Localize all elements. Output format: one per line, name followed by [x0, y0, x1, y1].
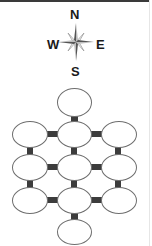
room-r3-right	[101, 187, 137, 214]
room-r2-left	[12, 154, 48, 181]
compass-rose: N W E S	[0, 0, 152, 82]
compass-south-label: S	[71, 65, 80, 78]
room-top	[57, 88, 92, 117]
compass-north-label: N	[70, 8, 79, 21]
room-bottom	[57, 219, 92, 245]
compass-east-label: E	[96, 38, 105, 51]
room-r1-left	[12, 121, 48, 148]
room-r2-center	[57, 154, 92, 181]
room-r1-right	[101, 121, 137, 148]
room-r1-center	[57, 121, 92, 148]
compass-star-icon	[58, 22, 94, 62]
room-r3-left	[12, 187, 48, 214]
room-r2-right	[101, 154, 137, 181]
room-r3-center	[57, 187, 92, 214]
